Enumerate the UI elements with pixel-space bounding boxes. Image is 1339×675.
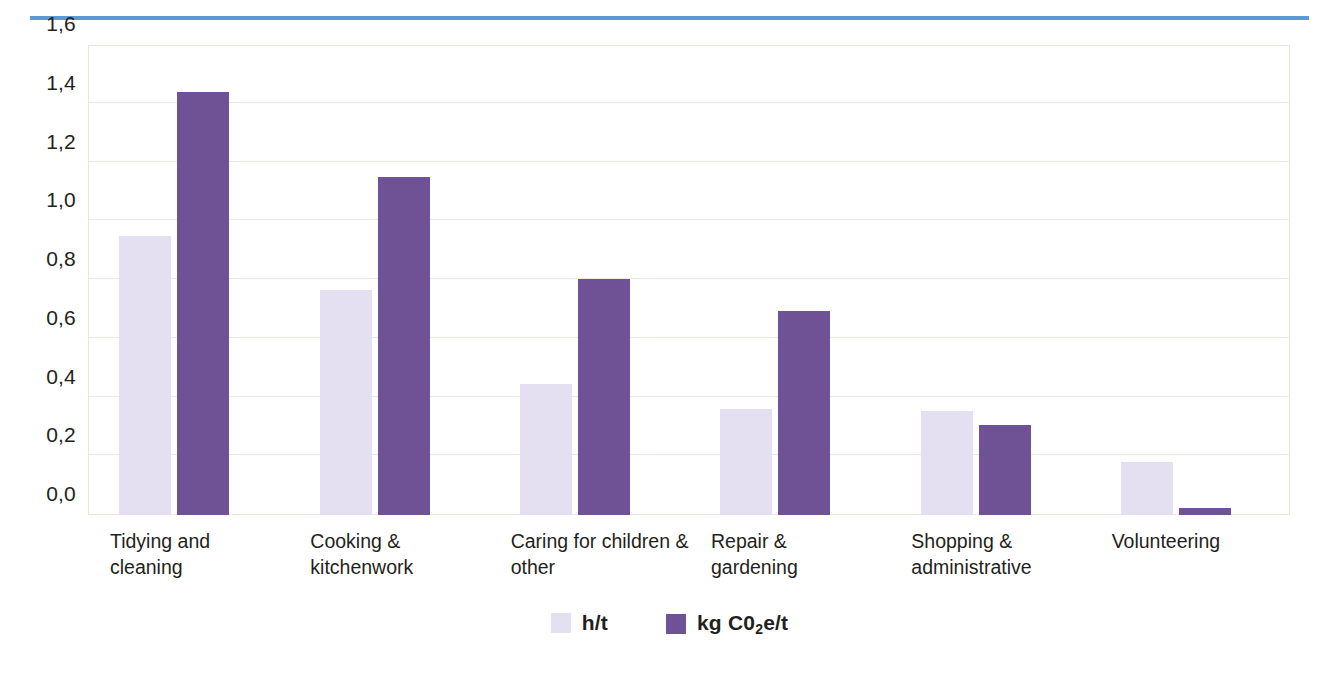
x-category-label: Volunteering: [1112, 528, 1332, 554]
chart-figure: 1,61,41,21,00,80,60,40,20,0 Tidying and …: [0, 0, 1339, 675]
x-category-label: Caring for children & other: [511, 528, 731, 580]
y-tick-label: 0,4: [0, 366, 76, 387]
y-tick-label: 1,2: [0, 131, 76, 152]
x-category-label: Repair & gardening: [711, 528, 931, 580]
x-axis: Tidying and cleaningCooking & kitchenwor…: [88, 528, 1290, 592]
bar-ht: [320, 290, 372, 515]
y-tick-label: 0,2: [0, 424, 76, 445]
y-tick-label: 0,0: [0, 483, 76, 504]
legend-label: kg C02e/t: [697, 612, 788, 636]
x-category-label: Tidying and cleaning: [110, 528, 330, 580]
y-tick-label: 1,0: [0, 189, 76, 210]
bar-ht: [119, 236, 171, 515]
y-axis: 1,61,41,21,00,80,60,40,20,0: [0, 45, 76, 515]
bars-layer: [88, 45, 1290, 515]
legend-item[interactable]: h/t: [551, 612, 608, 633]
bar-co2: [578, 279, 630, 515]
bar-ht: [720, 409, 772, 515]
top-divider-rule: [30, 16, 1309, 20]
y-tick-label: 1,6: [0, 13, 76, 34]
y-tick-label: 1,4: [0, 72, 76, 93]
y-tick-label: 0,8: [0, 248, 76, 269]
bar-ht: [1121, 462, 1173, 515]
x-category-label: Shopping & administrative: [911, 528, 1131, 580]
bar-co2: [378, 177, 430, 515]
chart-legend: h/tkg C02e/t: [0, 612, 1339, 636]
bar-ht: [520, 384, 572, 515]
bar-co2: [778, 311, 830, 515]
bar-co2: [1179, 508, 1231, 515]
legend-item[interactable]: kg C02e/t: [666, 612, 788, 636]
bar-ht: [921, 411, 973, 515]
y-tick-label: 0,6: [0, 307, 76, 328]
legend-label: h/t: [582, 612, 608, 633]
x-category-label: Cooking & kitchenwork: [310, 528, 530, 580]
legend-swatch-icon: [666, 614, 686, 634]
legend-swatch-icon: [551, 613, 571, 633]
bar-co2: [979, 425, 1031, 515]
bar-co2: [177, 92, 229, 515]
